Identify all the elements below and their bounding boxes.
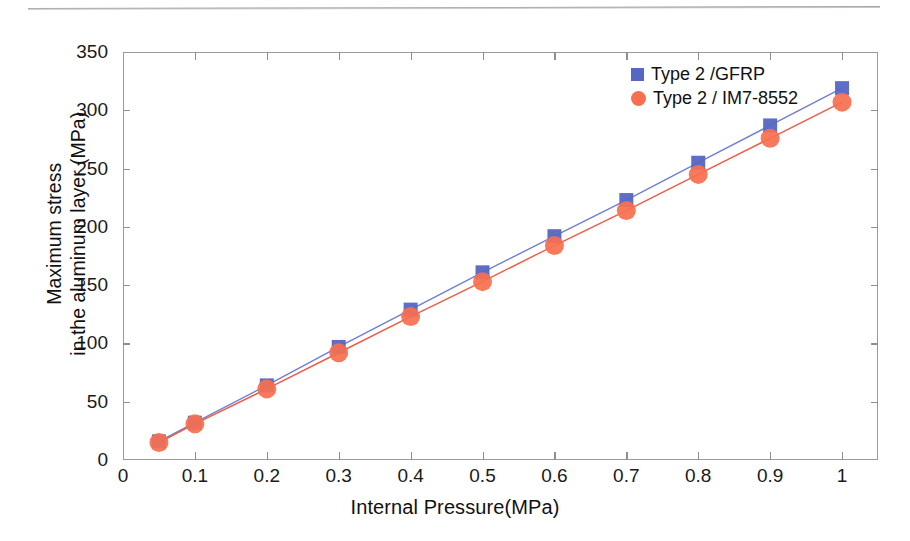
legend-item-gfrp: Type 2 /GFRP <box>631 63 846 85</box>
x-tick-mark <box>698 52 699 60</box>
data-point-marker-circle <box>761 129 780 148</box>
x-axis-label: Internal Pressure(MPa) <box>0 496 910 519</box>
x-tick-label: 0.7 <box>596 466 656 485</box>
x-tick-mark <box>195 52 196 60</box>
x-tick-mark <box>770 52 771 60</box>
x-tick-mark <box>483 452 484 460</box>
y-tick-mark <box>871 343 878 344</box>
x-tick-mark <box>626 52 627 60</box>
x-tick-label: 0.1 <box>165 466 225 485</box>
x-tick-mark <box>339 52 340 60</box>
x-tick-mark <box>842 452 843 460</box>
x-tick-mark <box>554 452 555 460</box>
legend-label: Type 2 /GFRP <box>651 64 765 85</box>
x-tick-mark <box>842 52 843 60</box>
y-tick-mark <box>123 285 130 286</box>
legend-label: Type 2 / IM7-8552 <box>653 88 798 109</box>
legend-item-im7-8552: Type 2 / IM7-8552 <box>631 87 846 109</box>
x-tick-mark <box>626 452 627 460</box>
x-tick-label: 0.8 <box>668 466 728 485</box>
data-point-marker-circle <box>185 414 204 433</box>
x-tick-mark <box>267 52 268 60</box>
legend-circle-marker-icon <box>631 91 646 106</box>
y-tick-mark <box>123 227 130 228</box>
data-point-marker-circle <box>329 343 348 362</box>
x-tick-label: 1 <box>812 466 872 485</box>
chart-legend: Type 2 /GFRP Type 2 / IM7-8552 <box>631 63 846 109</box>
x-tick-mark <box>411 452 412 460</box>
y-tick-mark <box>123 343 130 344</box>
data-point-marker-circle <box>473 272 492 291</box>
y-tick-mark <box>871 169 878 170</box>
y-tick-mark <box>871 227 878 228</box>
x-tick-mark <box>554 52 555 60</box>
data-point-marker-circle <box>149 433 168 452</box>
y-tick-mark <box>871 402 878 403</box>
y-axis-label-line2: in the aluminum layer (MPa) <box>67 34 91 434</box>
x-tick-label: 0.3 <box>309 466 369 485</box>
data-point-marker-circle <box>617 201 636 220</box>
y-axis-label-line1: Maximum stress <box>43 34 67 434</box>
x-tick-mark <box>770 452 771 460</box>
data-point-marker-circle <box>689 165 708 184</box>
y-tick-mark <box>871 110 878 111</box>
x-tick-label: 0 <box>93 466 153 485</box>
y-axis-label: Maximum stress in the aluminum layer (MP… <box>43 34 91 434</box>
x-tick-mark <box>483 52 484 60</box>
y-tick-mark <box>871 285 878 286</box>
y-tick-mark <box>123 110 130 111</box>
legend-square-marker-icon <box>631 68 644 81</box>
x-tick-label: 0.5 <box>453 466 513 485</box>
x-tick-mark <box>339 452 340 460</box>
chart-figure: 050100150200250300350 00.10.20.30.40.50.… <box>0 0 910 541</box>
data-point-marker-circle <box>257 379 276 398</box>
x-tick-label: 0.2 <box>237 466 297 485</box>
x-tick-mark <box>267 452 268 460</box>
y-tick-mark <box>123 169 130 170</box>
y-tick-mark <box>123 402 130 403</box>
data-point-marker-circle <box>545 236 564 255</box>
data-point-marker-circle <box>401 307 420 326</box>
x-tick-label: 0.9 <box>740 466 800 485</box>
x-tick-mark <box>411 52 412 60</box>
x-tick-label: 0.6 <box>524 466 584 485</box>
x-tick-label: 0.4 <box>381 466 441 485</box>
x-tick-mark <box>195 452 196 460</box>
x-tick-mark <box>698 452 699 460</box>
